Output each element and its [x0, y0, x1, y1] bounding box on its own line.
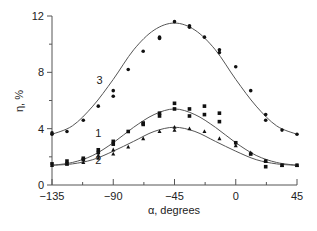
marker-circle [234, 65, 238, 69]
marker-square [111, 142, 115, 146]
marker-circle [111, 89, 115, 93]
data-points [50, 20, 299, 169]
marker-circle [50, 133, 54, 137]
x-tick-label: −135 [40, 190, 65, 202]
y-tick-label: 12 [32, 10, 44, 22]
marker-square [173, 107, 177, 111]
marker-square [141, 121, 145, 125]
marker-square [203, 113, 207, 117]
y-tick-label: 0 [38, 179, 44, 191]
marker-circle [126, 68, 130, 72]
marker-circle [96, 104, 100, 108]
marker-circle [82, 118, 86, 122]
marker-circle [65, 130, 69, 134]
marker-circle [111, 94, 115, 98]
fit-curve-2 [52, 127, 297, 165]
fit-curve-1 [52, 109, 297, 165]
marker-square [173, 102, 177, 106]
marker-square [264, 165, 268, 169]
marker-circle [264, 118, 268, 122]
marker-square [203, 104, 207, 108]
x-axis-label: α, degrees [148, 204, 201, 216]
tick-labels: −135−90−4504504812 [32, 10, 303, 202]
x-tick-label: 0 [233, 190, 239, 202]
marker-triangle [202, 129, 206, 133]
y-tick-label: 4 [38, 123, 44, 135]
marker-circle [173, 20, 177, 24]
marker-circle [280, 128, 284, 132]
curve-label-3: 3 [97, 74, 103, 86]
marker-circle [188, 25, 192, 29]
x-tick-label: −90 [104, 190, 123, 202]
marker-circle [249, 89, 253, 93]
marker-square [126, 130, 130, 134]
marker-square [188, 114, 192, 118]
marker-circle [158, 35, 162, 39]
marker-circle [141, 49, 145, 53]
marker-triangle [217, 136, 221, 140]
marker-triangle [111, 148, 115, 152]
marker-triangle [187, 126, 191, 130]
x-tick-label: −45 [165, 190, 184, 202]
marker-square [158, 114, 162, 118]
marker-square [218, 111, 222, 115]
marker-circle [218, 48, 222, 52]
marker-triangle [126, 145, 130, 149]
marker-circle [203, 35, 207, 39]
marker-circle [295, 133, 299, 137]
fit-curves [52, 23, 297, 165]
marker-circle [264, 113, 268, 117]
fit-curve-3 [52, 23, 297, 134]
marker-triangle [111, 152, 115, 156]
chart: −135−90−4504504812 α, degrees η, % 312 [0, 0, 317, 231]
curve-label-2: 2 [95, 154, 101, 166]
marker-square [188, 107, 192, 111]
y-tick-label: 8 [38, 66, 44, 78]
x-tick-label: 45 [291, 190, 303, 202]
curve-label-1: 1 [95, 127, 101, 139]
y-axis-label: η, % [13, 90, 25, 112]
marker-square [218, 120, 222, 124]
